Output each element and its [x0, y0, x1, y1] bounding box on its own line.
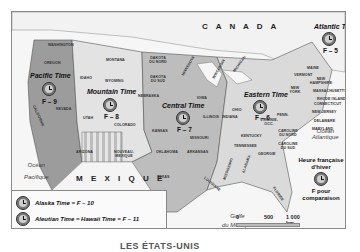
state-label: OKLAHOMA [156, 150, 178, 154]
state-label: NEW JERSEY [312, 110, 337, 114]
state-label: OHIO [232, 108, 242, 112]
clock-icon [16, 212, 30, 226]
zone-offset-atlantic: F – 5 [323, 47, 338, 54]
state-label: TENNESSEE [234, 144, 257, 148]
state-label: GEORGIE [258, 152, 275, 156]
clock-icon [314, 172, 328, 186]
state-label: MAINE [307, 66, 319, 70]
clock-icon [16, 196, 30, 210]
zone-label-mountain: Mountain Time [87, 88, 136, 95]
state-label: ARIZONA [76, 150, 93, 154]
state-label: WYOMING [105, 79, 124, 83]
clock-icon [176, 111, 190, 125]
state-label: NEVADA [56, 107, 72, 111]
state-label: INDIANA [222, 115, 238, 119]
caption: LES ÉTATS-UNIS [120, 241, 200, 251]
state-label: KENTUCKY [241, 134, 262, 138]
state-label: PENN. [277, 113, 288, 117]
zone-offset-mountain: F – 8 [104, 113, 119, 120]
state-label: IDAHO [80, 76, 92, 80]
zone-label-pacific: Pacific Time [30, 72, 71, 79]
state-label: WASHINGTON [48, 43, 74, 47]
state-label: MISSOURI [190, 136, 209, 140]
zone-label-atlantic: Atlantic Time [314, 23, 346, 30]
state-label: IOWA [197, 96, 207, 100]
state-label: NEW YORK [287, 86, 303, 94]
zone-label-eastern: Eastern Time [244, 91, 288, 98]
state-label: ILLINOIS [203, 115, 219, 119]
reference-french-time: Heure française d'hiver F pour comparais… [291, 157, 346, 201]
state-label: DAKOTA DU SUD [147, 75, 169, 83]
zone-offset-pacific: F – 9 [42, 98, 57, 105]
clock-icon [253, 100, 267, 114]
state-label: UTAH [83, 116, 93, 120]
state-label: RHODE ISLAND [317, 97, 346, 101]
state-label: TEXAS [157, 175, 169, 179]
state-label: ARKANSAS [187, 150, 208, 154]
state-label: MONTANA [106, 58, 125, 62]
state-label: DELAWARE [314, 119, 335, 123]
state-label: OREGON [44, 61, 61, 65]
clock-icon [322, 32, 336, 46]
state-label: KANSAS [152, 129, 168, 133]
zone-offset-central: F – 7 [177, 126, 192, 133]
state-label: DAKOTA DU NORD [147, 56, 169, 64]
zone-label-central: Central Time [162, 102, 204, 109]
state-label: VIRGINIE-OCC. [258, 118, 280, 126]
state-label: MASSACHUSETTS [313, 89, 346, 93]
country-label-canada: C A N A D A [202, 22, 279, 31]
state-label: NEW HAMPSHIRE [308, 77, 334, 85]
state-label: CAROLINE DU NORD [276, 129, 300, 137]
map-frame: C A N A D A M E X I Q U E OcéanPacifique… [11, 11, 346, 229]
state-label: COLORADO [114, 123, 136, 127]
state-label: CONNECTICUT [314, 102, 341, 106]
country-label-mexico: M E X I Q U E [76, 174, 165, 183]
clock-icon [103, 98, 117, 112]
legend-row-aleutian: Aleutian Time = Hawaii Time = F – 11 [16, 212, 139, 226]
state-label: MARYLAND [312, 127, 333, 131]
legend: Alaska Time = F – 10 Aleutian Time = Haw… [12, 190, 167, 229]
clock-icon [42, 82, 56, 96]
state-label: NOUVEAU-MEXIQUE [109, 150, 139, 158]
legend-row-alaska: Alaska Time = F – 10 [16, 196, 94, 210]
sea-label-pacific: OcéanPacifique [24, 162, 49, 180]
state-label: NEBRASKA [138, 94, 159, 98]
state-label: CAROLINE DU SUD [276, 142, 300, 150]
